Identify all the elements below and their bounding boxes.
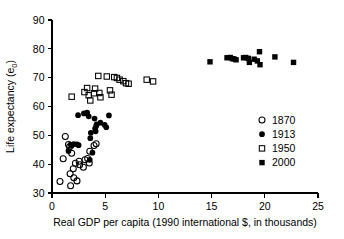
- data-point-1913: [87, 135, 93, 141]
- y-axis-tick-label: 80: [33, 43, 45, 55]
- y-axis-tick-label: 50: [33, 129, 45, 141]
- data-points: [57, 49, 296, 189]
- chart-legend: 1870191319502000: [259, 114, 296, 169]
- y-axis-tick-label: 70: [33, 71, 45, 83]
- scatter-plot-figure: 304050607080900510152025 187019131950200…: [0, 0, 344, 239]
- legend-item-1870: 1870: [259, 114, 296, 126]
- data-point-1950: [150, 79, 155, 84]
- data-point-1913: [90, 150, 96, 156]
- x-axis-title: Real GDP per capita (1990 international …: [53, 216, 317, 228]
- data-point-1870: [57, 178, 63, 184]
- legend-marker-1870: [259, 117, 265, 123]
- data-point-2000: [291, 60, 296, 65]
- x-axis-tick-label: 25: [312, 200, 324, 212]
- data-point-2000: [247, 60, 252, 65]
- data-point-1870: [60, 156, 66, 162]
- x-axis-tick-label: 15: [206, 200, 218, 212]
- legend-marker-2000: [259, 160, 264, 165]
- data-point-2000: [207, 59, 212, 64]
- data-point-2000: [233, 57, 238, 62]
- legend-marker-1913: [259, 131, 265, 137]
- legend-label-1950: 1950: [272, 142, 296, 154]
- legend-item-2000: 2000: [259, 156, 295, 168]
- y-axis-title: Life expectancy (e0): [4, 60, 19, 153]
- legend-item-1913: 1913: [259, 128, 295, 140]
- y-axis-tick-label: 60: [33, 100, 45, 112]
- series-1913: [66, 110, 112, 163]
- data-point-1950: [69, 94, 74, 99]
- data-point-1913: [66, 148, 72, 154]
- x-axis-tick-label: 0: [49, 200, 55, 212]
- data-point-1913: [92, 116, 98, 122]
- data-point-1913: [75, 112, 81, 118]
- y-axis-tick-label: 30: [33, 187, 45, 199]
- data-point-1950: [144, 77, 149, 82]
- data-point-1913: [93, 128, 99, 134]
- y-axis-title-suffix: ): [4, 60, 16, 64]
- chart-canvas: 304050607080900510152025 187019131950200…: [0, 0, 344, 239]
- legend-marker-1950: [259, 146, 264, 151]
- data-point-1913: [87, 157, 93, 163]
- data-point-2000: [257, 62, 262, 67]
- data-point-1913: [86, 113, 92, 119]
- legend-label-2000: 2000: [272, 156, 296, 168]
- data-point-1870: [62, 133, 68, 139]
- x-axis-tick-label: 20: [259, 200, 271, 212]
- data-point-1913: [76, 142, 82, 148]
- legend-item-1950: 1950: [259, 142, 295, 154]
- series-1950: [69, 73, 156, 103]
- data-point-1950: [104, 74, 109, 79]
- data-point-1950: [88, 98, 93, 103]
- series-2000: [207, 49, 296, 67]
- data-point-1913: [106, 113, 112, 119]
- legend-label-1913: 1913: [272, 128, 296, 140]
- data-point-1950: [96, 73, 101, 78]
- y-axis-tick-label: 40: [33, 158, 45, 170]
- data-point-1913: [103, 124, 109, 130]
- legend-label-1870: 1870: [272, 114, 296, 126]
- y-axis-title-main: Life expectancy (e: [4, 68, 16, 153]
- data-point-2000: [257, 49, 262, 54]
- y-axis-tick-label: 90: [33, 14, 45, 26]
- x-axis-tick-label: 10: [153, 200, 165, 212]
- x-axis-tick-label: 5: [102, 200, 108, 212]
- data-point-1870: [68, 183, 74, 189]
- axes: 304050607080900510152025: [33, 14, 324, 212]
- data-point-2000: [272, 54, 277, 59]
